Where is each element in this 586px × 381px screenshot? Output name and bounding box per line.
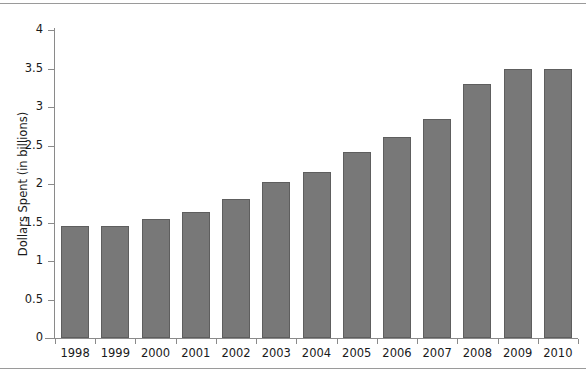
y-tick-mark [48,30,54,31]
y-tick-mark [48,146,54,147]
y-tick-label: 0.5 [3,294,43,306]
bar [544,69,572,339]
y-tick-label: 4 [3,24,43,36]
y-tick-label: 3 [3,101,43,113]
x-tick-label: 2000 [133,348,179,360]
y-tick-mark [48,261,54,262]
x-tick-mark [498,339,499,344]
x-tick-label: 2004 [294,348,340,360]
y-tick-label: 1.5 [3,217,43,229]
bar [423,119,451,338]
x-tick-label: 2003 [253,348,299,360]
bar [343,152,371,338]
x-tick-mark [377,339,378,344]
x-tick-label: 1998 [52,348,98,360]
x-tick-mark [296,339,297,344]
y-tick-mark [48,107,54,108]
x-tick-mark [337,339,338,344]
bar [101,226,129,338]
x-tick-mark [55,339,56,344]
x-tick-label: 2002 [213,348,259,360]
bar [182,212,210,338]
x-tick-label: 2008 [454,348,500,360]
x-tick-label: 2010 [535,348,581,360]
y-tick-label: 0 [3,332,43,344]
bar [222,199,250,338]
x-tick-label: 2005 [334,348,380,360]
x-tick-label: 1999 [92,348,138,360]
y-tick-mark [48,300,54,301]
bar [61,226,89,338]
x-tick-label: 2007 [414,348,460,360]
y-tick-label: 2 [3,178,43,190]
y-tick-mark [48,69,54,70]
page-rule-bottom [0,368,586,369]
x-tick-label: 2009 [495,348,541,360]
y-tick-label: 2.5 [3,140,43,152]
bar [303,172,331,338]
x-tick-label: 2006 [374,348,420,360]
bar [463,84,491,338]
x-tick-mark [176,339,177,344]
x-tick-mark [95,339,96,344]
bar [262,182,290,338]
bar [504,69,532,339]
bar [142,219,170,338]
y-tick-mark [48,184,54,185]
y-tick-mark [48,223,54,224]
y-tick-label: 1 [3,255,43,267]
x-tick-mark [256,339,257,344]
y-tick-label: 3.5 [3,63,43,75]
x-tick-mark [538,339,539,344]
bar [383,137,411,338]
x-tick-label: 2001 [173,348,219,360]
x-tick-mark [457,339,458,344]
y-tick-mark [48,338,54,339]
x-tick-mark [417,339,418,344]
y-axis-line [54,28,55,339]
x-tick-mark [578,339,579,344]
bar-chart: Dollars Spent (in billions) 00.511.522.5… [0,8,586,364]
x-tick-mark [135,339,136,344]
page-rule-top [0,3,586,4]
x-tick-mark [216,339,217,344]
